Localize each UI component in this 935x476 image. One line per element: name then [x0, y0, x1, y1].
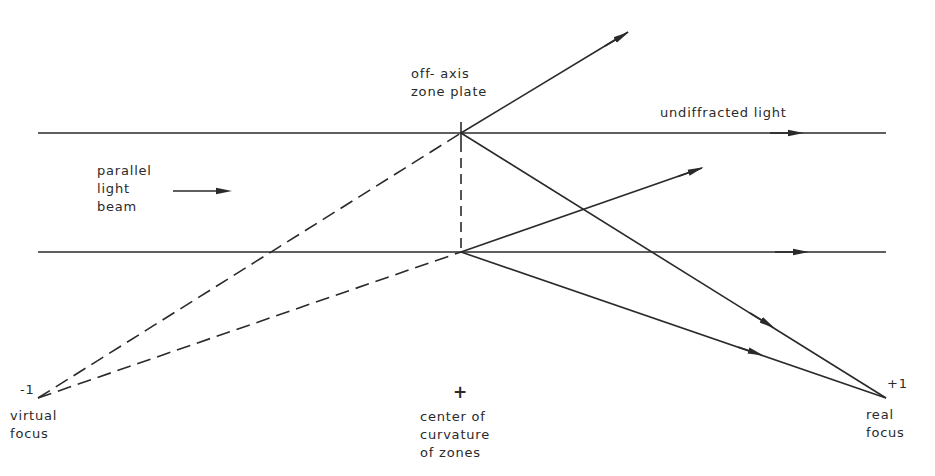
beam-label-line3: beam: [97, 198, 152, 216]
center-label: center of curvature of zones: [420, 408, 490, 462]
zone-plate-label-line2: zone plate: [411, 83, 487, 101]
minus-one-arrow-bottom: [678, 170, 696, 177]
beam-label-line1: parallel: [97, 162, 152, 180]
minus-one-arrow-top: [605, 36, 622, 46]
center-label-line3: of zones: [420, 444, 490, 462]
real-focus-line2: focus: [866, 424, 905, 442]
beam-label-line2: light: [97, 180, 152, 198]
zone-plate-label: off- axis zone plate: [411, 65, 487, 101]
zone-plate-label-line1: off- axis: [411, 65, 487, 83]
real-focus-line1: real: [866, 406, 905, 424]
center-label-line1: center of: [420, 408, 490, 426]
plus-one-ray-bottom: [461, 252, 886, 398]
virtual-focus-label: virtual focus: [10, 407, 57, 443]
beam-label: parallel light beam: [97, 162, 152, 216]
center-mark: +: [453, 383, 468, 401]
real-order-label: +1: [887, 375, 908, 393]
virtual-order-label: -1: [20, 381, 35, 399]
virtual-focus-line1: virtual: [10, 407, 57, 425]
center-label-line2: curvature: [420, 426, 490, 444]
minus-one-ray-bottom: [461, 168, 702, 252]
plus-one-ray-top: [461, 133, 886, 398]
virtual-ray-bottom: [38, 252, 461, 398]
undiffracted-label: undiffracted light: [660, 104, 787, 122]
real-focus-label: real focus: [866, 406, 905, 442]
plus-one-arrow-top: [750, 313, 768, 324]
virtual-focus-line2: focus: [10, 425, 57, 443]
plus-one-arrow-bottom: [738, 347, 756, 353]
